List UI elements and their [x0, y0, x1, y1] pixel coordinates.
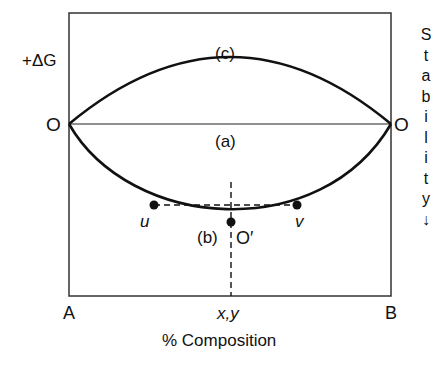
point-u [150, 201, 159, 210]
curve-b-label: (b) [197, 229, 218, 246]
stability-letter: t [416, 169, 436, 190]
stability-letter: i [416, 107, 436, 128]
x-mid-label: x,y [217, 305, 239, 322]
stability-vertical-label: S t a b i l i t y ↓ [416, 25, 436, 230]
x-right-label: B [385, 304, 397, 322]
stability-letter: S [416, 25, 436, 46]
stability-letter: l [416, 128, 436, 149]
down-arrow-icon: ↓ [416, 210, 436, 231]
y-axis-label: +ΔG [22, 52, 57, 69]
curve-a-label: (a) [215, 133, 236, 150]
curve-c [69, 57, 391, 124]
point-u-label: u [140, 213, 149, 230]
point-o-prime-label: O′ [236, 229, 253, 247]
x-axis-title: % Composition [162, 332, 276, 349]
stability-letter: a [416, 66, 436, 87]
point-o-prime [227, 218, 236, 227]
stability-letter: i [416, 148, 436, 169]
point-v [293, 201, 302, 210]
point-v-label: v [295, 213, 304, 230]
x-left-label: A [63, 304, 75, 322]
stability-letter: b [416, 87, 436, 108]
origin-left-label: O [46, 115, 61, 134]
stability-letter: y [416, 189, 436, 210]
stability-letter: t [416, 46, 436, 67]
origin-right-label: O [394, 115, 409, 134]
curve-c-label: (c) [215, 45, 235, 62]
